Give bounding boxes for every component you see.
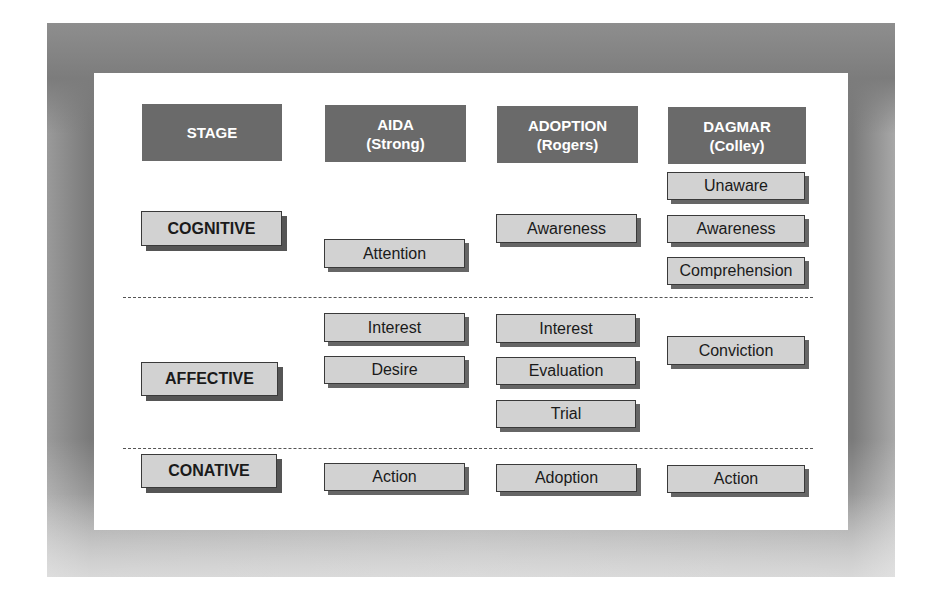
dagmar-conviction: Conviction <box>667 336 805 365</box>
adoption-interest: Interest <box>496 314 636 343</box>
header-aida-author: (Strong) <box>366 134 424 153</box>
aida-attention: Attention <box>324 239 465 268</box>
header-adoption-title: ADOPTION <box>528 116 607 135</box>
header-dagmar-title: DAGMAR <box>703 117 771 136</box>
header-dagmar-author: (Colley) <box>709 136 764 155</box>
header-aida: AIDA (Strong) <box>325 105 466 162</box>
aida-action: Action <box>324 463 465 491</box>
header-stage-label: STAGE <box>187 123 238 142</box>
stage-conative: CONATIVE <box>141 454 277 488</box>
adoption-evaluation: Evaluation <box>496 357 636 385</box>
header-aida-title: AIDA <box>377 115 414 134</box>
aida-interest: Interest <box>324 313 465 342</box>
divider-affective-conative <box>123 448 813 449</box>
header-adoption-author: (Rogers) <box>537 135 599 154</box>
stage-cognitive: COGNITIVE <box>141 211 282 246</box>
adoption-adoption: Adoption <box>496 464 637 492</box>
adoption-trial: Trial <box>496 400 636 428</box>
aida-desire: Desire <box>324 356 465 384</box>
header-adoption: ADOPTION (Rogers) <box>497 106 638 163</box>
header-stage: STAGE <box>142 104 282 161</box>
dagmar-awareness: Awareness <box>667 215 805 243</box>
dagmar-unaware: Unaware <box>667 172 805 200</box>
divider-cognitive-affective <box>123 297 813 298</box>
header-dagmar: DAGMAR (Colley) <box>668 107 806 164</box>
adoption-awareness: Awareness <box>496 214 637 243</box>
dagmar-comprehension: Comprehension <box>667 257 805 285</box>
stage-affective: AFFECTIVE <box>141 362 278 396</box>
dagmar-action: Action <box>667 465 805 493</box>
